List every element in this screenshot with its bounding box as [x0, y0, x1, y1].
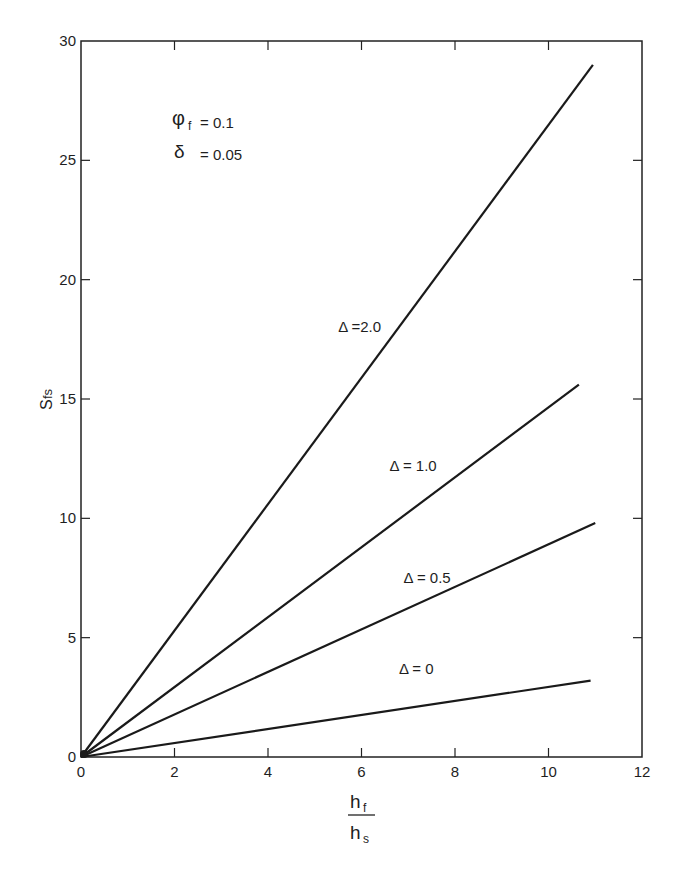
y-tick-label: 10	[59, 509, 76, 526]
series-line	[81, 523, 595, 757]
x-tick-label: 6	[357, 763, 365, 780]
y-tick-label: 25	[59, 151, 76, 168]
y-tick-label: 0	[68, 748, 76, 765]
data-series	[80, 65, 595, 758]
y-axis-label-main: S	[38, 399, 55, 410]
x-axis-label-numerator-sub: f	[363, 801, 367, 815]
y-tick-label: 30	[59, 32, 76, 49]
y-axis-label: S fs	[38, 388, 55, 410]
y-tick-label: 20	[59, 271, 76, 288]
x-axis-label-denominator: h	[350, 822, 361, 843]
delta-value: = 0.05	[200, 146, 242, 163]
delta-symbol: δ	[174, 141, 185, 162]
series-label: Δ = 0.5	[404, 569, 451, 586]
y-axis-label-sub: fs	[40, 388, 55, 399]
origin-marker	[80, 750, 88, 758]
x-tick-label: 8	[451, 763, 459, 780]
plot-frame	[81, 41, 642, 757]
phi-subscript: f	[188, 119, 192, 133]
y-tick-label: 15	[59, 390, 76, 407]
x-tick-labels: 024681012	[77, 763, 651, 780]
axes-box	[81, 41, 642, 757]
x-tick-label: 10	[540, 763, 557, 780]
series-labels: Δ =2.0Δ = 1.0Δ = 0.5Δ = 0	[338, 318, 451, 676]
y-tick-label: 5	[68, 629, 76, 646]
chart: 024681012 051015202530 Δ =2.0Δ = 1.0Δ = …	[0, 0, 684, 876]
x-tick-label: 2	[170, 763, 178, 780]
x-tick-label: 4	[264, 763, 272, 780]
series-line	[81, 65, 593, 757]
phi-symbol: φ	[172, 107, 185, 129]
axis-ticks	[81, 41, 642, 757]
series-line	[81, 681, 591, 757]
y-tick-labels: 051015202530	[59, 32, 76, 765]
x-axis-label-numerator: h	[350, 791, 361, 812]
x-tick-label: 12	[634, 763, 651, 780]
x-tick-label: 0	[77, 763, 85, 780]
parameter-annotation: φ f = 0.1 δ = 0.05	[172, 107, 242, 163]
series-label: Δ = 0	[399, 660, 434, 677]
x-axis-label: h f h s	[348, 791, 375, 846]
x-axis-label-denominator-sub: s	[363, 832, 369, 846]
series-line	[81, 385, 579, 757]
phi-value: = 0.1	[200, 114, 234, 131]
series-label: Δ =2.0	[338, 318, 381, 335]
series-label: Δ = 1.0	[390, 457, 437, 474]
